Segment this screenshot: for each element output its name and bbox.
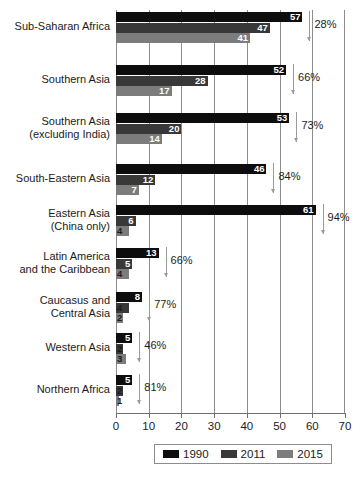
category-label: Latin Americaand the Caribbean: [0, 250, 110, 276]
bar-2015: 3: [116, 354, 126, 364]
bar-2015: 41: [116, 33, 250, 43]
bar-value-label: 1: [117, 395, 122, 406]
legend-label: 2015: [297, 448, 323, 460]
bar-2011: 2: [116, 344, 123, 354]
category-label: South-Eastern Asia: [0, 172, 110, 185]
category-label-line: Western Asia: [0, 341, 110, 354]
category-label-line: (China only): [0, 220, 110, 233]
category-label-line: Northern Africa: [0, 383, 110, 396]
legend-swatch: [221, 450, 237, 458]
bar-1990: 5: [116, 375, 132, 385]
legend: 199020112015: [154, 444, 332, 464]
tick-mark-20: [181, 413, 182, 418]
category-label-line: Latin America: [0, 250, 110, 263]
annotation-percent-label: 77%: [154, 298, 176, 310]
legend-label: 2011: [241, 448, 266, 460]
annotation-percent-label: 28%: [314, 18, 336, 30]
bar-value-label: 12: [143, 174, 154, 185]
legend-item[interactable]: 2011: [221, 448, 266, 460]
bar-1990: 61: [116, 205, 316, 215]
down-arrow-icon: [321, 230, 325, 234]
tick-label-0: 0: [101, 420, 131, 432]
tick-label-10: 10: [134, 420, 164, 432]
tick-label-60: 60: [297, 420, 327, 432]
bar-value-label: 20: [169, 123, 180, 134]
down-arrow-icon: [307, 37, 311, 41]
bar-value-label: 57: [290, 11, 301, 22]
bar-value-label: 2: [117, 385, 122, 396]
bar-value-label: 3: [117, 353, 122, 364]
bar-2011: 12: [116, 175, 155, 185]
bar-value-label: 8: [135, 291, 140, 302]
category-label: Caucasus andCentral Asia: [0, 294, 110, 320]
category-label: Western Asia: [0, 341, 110, 354]
bar-2015: 17: [116, 86, 172, 96]
down-arrow-icon: [271, 189, 275, 193]
annotation-percent-label: 81%: [144, 381, 166, 393]
bar-value-label: 28: [195, 75, 206, 86]
legend-item[interactable]: 1990: [163, 448, 209, 460]
bar-2015: 14: [116, 134, 162, 144]
category-label-line: and the Caribbean: [0, 263, 110, 276]
category-label-line: Southern Asia: [0, 73, 110, 86]
bar-value-label: 53: [277, 112, 288, 123]
bar-1990: 13: [116, 248, 159, 258]
down-arrow-icon: [291, 90, 295, 94]
annotation-percent-label: 84%: [278, 170, 300, 182]
bar-value-label: 4: [117, 268, 122, 279]
down-arrow-icon: [137, 358, 141, 362]
tick-mark-0: [116, 413, 117, 418]
bar-1990: 53: [116, 113, 289, 123]
down-arrow-icon: [137, 400, 141, 404]
tick-mark-70: [345, 413, 346, 418]
bar-value-label: 2: [117, 312, 122, 323]
bar-value-label: 4: [117, 302, 122, 313]
tick-label-40: 40: [232, 420, 262, 432]
annotation-percent-label: 66%: [171, 254, 193, 266]
legend-swatch: [277, 450, 293, 458]
annotation-percent-label: 94%: [328, 211, 350, 223]
bar-value-label: 17: [159, 85, 170, 96]
category-label-line: Eastern Asia: [0, 207, 110, 220]
bar-1990: 57: [116, 12, 302, 22]
annotation-percent-label: 73%: [301, 119, 323, 131]
category-label: Eastern Asia(China only): [0, 207, 110, 233]
bar-value-label: 6: [128, 215, 133, 226]
bar-2011: 47: [116, 23, 270, 33]
bar-2015: 4: [116, 226, 129, 236]
bar-2015: 4: [116, 269, 129, 279]
tick-label-50: 50: [265, 420, 295, 432]
bar-group: 1354: [116, 248, 345, 279]
bar-value-label: 7: [132, 184, 137, 195]
category-label: Southern Asia: [0, 73, 110, 86]
bar-value-label: 52: [274, 64, 285, 75]
bar-1990: 46: [116, 164, 266, 174]
bar-2011: 28: [116, 76, 208, 86]
category-label-line: Caucasus and: [0, 294, 110, 307]
bar-group: 46127: [116, 164, 345, 195]
annotation-percent-label: 66%: [298, 71, 320, 83]
legend-item[interactable]: 2015: [277, 448, 323, 460]
down-arrow-icon: [147, 317, 151, 321]
bar-value-label: 2: [117, 343, 122, 354]
legend-label: 1990: [183, 448, 209, 460]
category-label-line: Sub-Saharan Africa: [0, 20, 110, 33]
bar-2015: 2: [116, 313, 123, 323]
down-arrow-icon: [164, 273, 168, 277]
tick-mark-30: [214, 413, 215, 418]
category-label: Northern Africa: [0, 383, 110, 396]
bar-1990: 8: [116, 292, 142, 302]
bar-value-label: 14: [149, 133, 160, 144]
bar-value-label: 5: [125, 332, 130, 343]
annotation-percent-label: 46%: [144, 339, 166, 351]
tick-mark-60: [312, 413, 313, 418]
bar-2011: 2: [116, 386, 123, 396]
down-arrow-icon: [294, 138, 298, 142]
bar-group: 6164: [116, 205, 345, 236]
tick-label-30: 30: [199, 420, 229, 432]
category-label: Southern Asia(excluding India): [0, 115, 110, 141]
bar-value-label: 13: [146, 247, 157, 258]
bar-value-label: 47: [257, 22, 268, 33]
legend-swatch: [163, 450, 179, 458]
bar-value-label: 46: [254, 163, 265, 174]
